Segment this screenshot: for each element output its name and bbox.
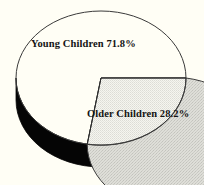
pie-chart-figure: Young Children 71.8% Older Children 28.2… — [0, 0, 204, 185]
slice-label-young-children: Young Children 71.8% — [31, 38, 136, 49]
slice-label-older-children: Older Children 28.2% — [87, 108, 189, 119]
pie-chart-canvas — [0, 0, 204, 185]
